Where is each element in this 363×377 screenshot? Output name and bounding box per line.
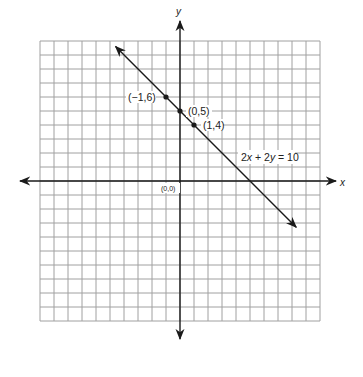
point-label: (1,4) (203, 119, 225, 131)
equation-line (116, 47, 297, 228)
equation-label: 2x + 2y = 10 (241, 151, 299, 163)
coordinate-plane-figure: (−1,6)(0,5)(1,4) x y (0,0) 2x + 2y = 10 (0, 0, 363, 377)
data-point (177, 108, 182, 113)
labels: x y (0,0) 2x + 2y = 10 (159, 6, 346, 193)
data-point (163, 94, 168, 99)
line-series (116, 47, 297, 228)
point-label: (0,5) (188, 105, 210, 117)
data-point (191, 122, 196, 127)
x-axis-label: x (339, 177, 346, 188)
point-label: (−1,6) (128, 91, 156, 103)
graph-canvas: (−1,6)(0,5)(1,4) x y (0,0) 2x + 2y = 10 (0, 0, 363, 377)
y-axis-label: y (175, 6, 182, 17)
origin-label: (0,0) (161, 185, 175, 193)
